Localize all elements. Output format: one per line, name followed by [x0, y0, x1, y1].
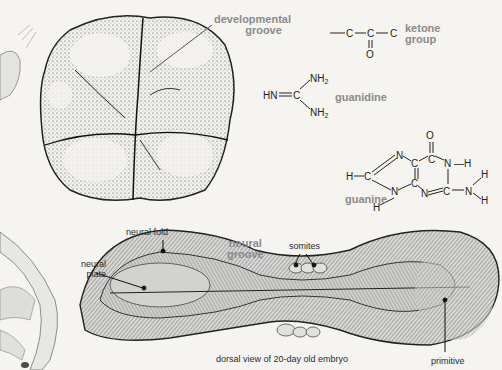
neural-plate-label-line1: neural	[81, 259, 106, 269]
svg-text:H: H	[481, 169, 488, 180]
svg-text:C: C	[390, 28, 397, 39]
guanine-label: guanine	[345, 194, 387, 205]
guanidine-label: guanidine	[335, 92, 387, 103]
svg-text:O: O	[366, 49, 374, 60]
svg-text:C: C	[367, 28, 374, 39]
neural-fold-label: neural fold	[126, 227, 168, 237]
svg-text:NH2: NH2	[310, 107, 328, 119]
ketone-label-line2: group	[405, 34, 440, 45]
svg-text:N: N	[396, 150, 403, 161]
svg-text:C: C	[346, 28, 353, 39]
developmental-groove-label: developmental groove	[214, 14, 291, 36]
svg-text:C: C	[411, 178, 418, 189]
developmental-groove-label-line2: groove	[214, 25, 291, 36]
neural-groove-label-line2: groove	[227, 249, 264, 260]
guanidine-structure: HN C NH2 NH2	[263, 73, 328, 119]
neural-plate-label: neural plate	[81, 259, 106, 279]
svg-text:—H: —H	[454, 158, 471, 169]
illustration-canvas: C C C O HN C NH2 NH2 O N C C N —H H C C …	[0, 0, 502, 370]
jaw-fragment-top	[0, 25, 36, 100]
ketone-group-label: ketone group	[405, 23, 440, 45]
svg-text:C: C	[443, 186, 450, 197]
svg-text:HN: HN	[263, 90, 277, 101]
svg-text:C: C	[411, 158, 418, 169]
molar-tooth-illustration	[41, 16, 234, 201]
svg-text:H: H	[346, 171, 353, 182]
svg-text:C: C	[364, 171, 371, 182]
svg-text:N: N	[391, 186, 398, 197]
svg-text:N: N	[465, 186, 472, 197]
svg-text:NH2: NH2	[310, 73, 328, 85]
somites-label: somites	[289, 241, 320, 251]
limb-fragment-bottom	[0, 232, 58, 370]
svg-text:C: C	[428, 154, 435, 165]
neural-groove-label: neural groove	[227, 238, 264, 260]
ketone-structure: C C C O	[330, 28, 397, 60]
primitive-label: primitive	[431, 356, 465, 366]
svg-text:O: O	[426, 130, 434, 141]
svg-text:N: N	[444, 158, 451, 169]
embryo-caption: dorsal view of 20-day old embryo	[216, 354, 348, 364]
svg-text:H: H	[481, 195, 488, 206]
svg-text:C: C	[293, 90, 300, 101]
neural-plate-label-line2: plate	[81, 269, 106, 279]
